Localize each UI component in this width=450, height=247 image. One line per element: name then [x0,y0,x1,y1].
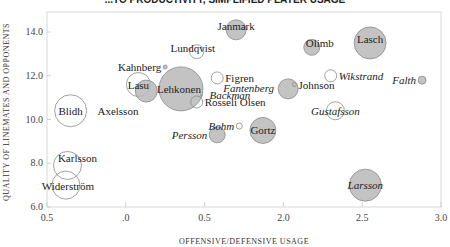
bubble-label: Rosseli Olsen [205,96,266,108]
x-tick-label: 0.5 [41,212,54,223]
bubble-label: Lasu [128,79,150,91]
bubble-label: Persson [171,129,208,141]
bubble-label: Gortz [250,124,275,136]
x-axis-label: OFFENSIVE/DEFENSIVE USAGE [179,237,309,246]
x-tick-label: 2.5 [356,212,369,223]
bubble-falth [418,76,426,84]
bubble-label: Olimb [306,37,335,49]
bubble-label: Lehkonen [157,83,201,95]
bubble-label: Axelsson [97,105,138,117]
bubble-label: Karlsson [58,152,98,164]
bubble-label: Gustafsson [311,105,360,117]
bubble-label: Widerström [42,180,95,192]
y-tick-label: 8.0 [31,157,44,168]
bubble-label: Johnson [298,79,335,91]
bubble-label: Bohm [209,120,235,132]
y-tick-label: 6.0 [31,201,44,212]
bubble-label: Lundqvist [170,42,215,54]
chart-title: ...TO PRODUCTIVITY, SIMPLIFIED PLAYER US… [105,0,346,5]
x-tick-label: 2.0 [277,212,290,223]
y-tick-label: 14.0 [26,26,44,37]
bubble-label: Larsson [347,179,384,191]
bubble-label: Falth [391,74,416,86]
bubble-kahnberg [163,65,167,69]
bubble-chart: ...TO PRODUCTIVITY, SIMPLIFIED PLAYER US… [0,0,450,247]
y-tick-label: 10.0 [26,114,44,125]
bubble-label: Kahnberg [118,61,162,73]
bubble-label: Lasch [357,33,384,45]
bubble-label: Janmark [217,20,255,32]
x-tick-label: 3.0 [435,212,448,223]
bubble-fantenberg [278,79,298,99]
y-axis-label: QUALITY OF LINEMATES AND OPPONENTS [2,23,11,201]
bubble-label: Wikstrand [339,70,384,82]
x-tick-label: 0.5 [198,212,211,223]
x-tick-label: .0 [122,212,130,223]
y-tick-label: 12.0 [26,70,44,81]
bubble-label: Blidh [58,105,83,117]
